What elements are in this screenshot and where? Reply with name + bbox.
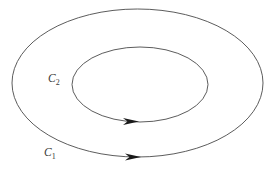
diagram-canvas: C2 C1 (0, 0, 277, 171)
outer-contour-label-subscript: 1 (52, 152, 56, 161)
inner-contour-label-subscript: 2 (56, 78, 60, 87)
contour-diagram-figure: C2 C1 (0, 0, 277, 171)
figure-background (0, 0, 277, 171)
